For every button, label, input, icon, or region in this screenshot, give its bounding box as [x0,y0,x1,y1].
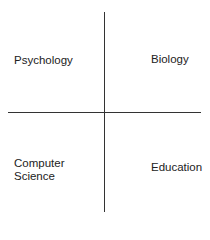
quadrant-label-bottom-right: Education [151,161,202,174]
quadrant-label-top-right: Biology [151,53,189,66]
quadrant-label-bottom-left: Computer Science [14,157,74,183]
quadrant-label-top-left: Psychology [14,54,73,67]
horizontal-axis [8,112,201,113]
